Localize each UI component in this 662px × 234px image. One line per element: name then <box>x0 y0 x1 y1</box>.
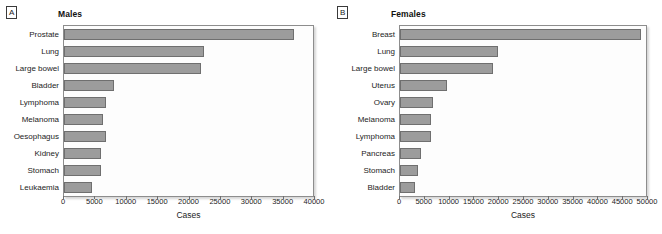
bar-row: Lymphoma <box>64 94 313 111</box>
bar <box>400 46 498 57</box>
panel-title-males: Males <box>58 9 82 19</box>
bar-row: Melanoma <box>64 111 313 128</box>
panel-title-females: Females <box>391 9 426 19</box>
category-label: Large bowel <box>15 65 64 73</box>
bar-row: Bladder <box>64 77 313 94</box>
x-tick-label: 0 <box>61 197 65 206</box>
bar-row: Pancreas <box>400 145 646 162</box>
bar-row: Stomach <box>64 162 313 179</box>
bar-row: Lymphoma <box>400 128 646 145</box>
x-axis-females: Cases 0500010000150002000025000300003500… <box>399 197 647 221</box>
bar <box>400 114 431 125</box>
bar <box>64 80 114 91</box>
bar <box>400 131 431 142</box>
bar-row: Kidney <box>64 145 313 162</box>
bar <box>64 29 294 40</box>
bar <box>64 131 106 142</box>
bar-row: Large bowel <box>64 60 313 77</box>
bar-row: Large bowel <box>400 60 646 77</box>
bar-row: Bladder <box>400 179 646 196</box>
x-tick-label: 15000 <box>463 197 484 206</box>
x-axis-title-females: Cases <box>399 210 647 220</box>
category-label: Prostate <box>29 31 64 39</box>
x-tick-label: 35000 <box>272 197 293 206</box>
x-tick-label: 40000 <box>304 197 325 206</box>
panel-a-males: A Males ProstateLungLarge bowelBladderLy… <box>0 0 331 234</box>
category-label: Bladder <box>31 82 64 90</box>
category-label: Lung <box>377 48 400 56</box>
category-label: Lymphoma <box>356 133 400 141</box>
category-label: Lymphoma <box>20 99 64 107</box>
category-label: Bladder <box>367 184 400 192</box>
bar <box>400 29 641 40</box>
x-tick-label: 25000 <box>513 197 534 206</box>
panel-b-females: B Females BreastLungLarge bowelUterusOva… <box>331 0 662 234</box>
bar-rows-females: BreastLungLarge bowelUterusOvaryMelanoma… <box>400 26 646 196</box>
bar <box>400 148 421 159</box>
category-label: Kidney <box>35 150 64 158</box>
category-label: Large bowel <box>351 65 400 73</box>
bar-row: Prostate <box>64 26 313 43</box>
bar <box>400 165 418 176</box>
bar-row: Ovary <box>400 94 646 111</box>
x-tick-label: 20000 <box>178 197 199 206</box>
panel-label-a: A <box>6 6 17 19</box>
bar <box>400 97 433 108</box>
bar-row: Breast <box>400 26 646 43</box>
x-tick-label: 5000 <box>86 197 103 206</box>
x-tick-label: 30000 <box>241 197 262 206</box>
category-label: Melanoma <box>358 116 400 124</box>
bar <box>400 182 415 193</box>
category-label: Leukaemia <box>20 184 64 192</box>
plot-area-females: BreastLungLarge bowelUterusOvaryMelanoma… <box>399 25 647 197</box>
x-axis-males: Cases 0500010000150002000025000300003500… <box>63 197 314 221</box>
x-tick-label: 10000 <box>115 197 136 206</box>
x-tick-label: 30000 <box>537 197 558 206</box>
category-label: Oesophagus <box>14 133 64 141</box>
x-tick-label: 45000 <box>612 197 633 206</box>
category-label: Uterus <box>371 82 400 90</box>
bar-row: Oesophagus <box>64 128 313 145</box>
category-label: Lung <box>41 48 64 56</box>
bar <box>64 182 92 193</box>
x-tick-label: 50000 <box>637 197 658 206</box>
category-label: Breast <box>372 31 400 39</box>
category-label: Melanoma <box>22 116 64 124</box>
x-tick-label: 0 <box>397 197 401 206</box>
category-label: Pancreas <box>361 150 400 158</box>
bar <box>400 63 493 74</box>
bar <box>400 80 447 91</box>
bar <box>64 63 201 74</box>
bar-row: Lung <box>64 43 313 60</box>
bar <box>64 114 103 125</box>
bar-row: Leukaemia <box>64 179 313 196</box>
category-label: Stomach <box>363 167 400 175</box>
plot-area-males: ProstateLungLarge bowelBladderLymphomaMe… <box>63 25 314 197</box>
bar <box>64 165 101 176</box>
category-label: Stomach <box>27 167 64 175</box>
bar <box>64 46 204 57</box>
bar-rows-males: ProstateLungLarge bowelBladderLymphomaMe… <box>64 26 313 196</box>
x-tick-label: 40000 <box>587 197 608 206</box>
x-tick-label: 15000 <box>147 197 168 206</box>
cancer-incidence-figure: A Males ProstateLungLarge bowelBladderLy… <box>0 0 662 234</box>
panel-label-b: B <box>337 6 348 19</box>
bar <box>64 97 106 108</box>
bar <box>64 148 101 159</box>
bar-row: Lung <box>400 43 646 60</box>
x-tick-label: 5000 <box>415 197 432 206</box>
x-tick-label: 20000 <box>488 197 509 206</box>
bar-row: Stomach <box>400 162 646 179</box>
bar-row: Melanoma <box>400 111 646 128</box>
bar-row: Uterus <box>400 77 646 94</box>
x-tick-label: 25000 <box>209 197 230 206</box>
category-label: Ovary <box>374 99 400 107</box>
x-tick-label: 10000 <box>438 197 459 206</box>
x-axis-title-males: Cases <box>63 210 314 220</box>
x-tick-label: 35000 <box>562 197 583 206</box>
